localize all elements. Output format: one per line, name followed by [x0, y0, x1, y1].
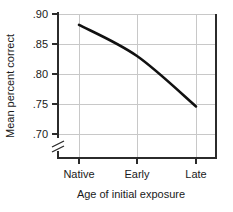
- chart-figure: .90 .85 .80 .75 .70 Native Early Late Ag…: [0, 0, 233, 212]
- x-tick-marks: [79, 158, 196, 164]
- y-tick-label-4: .70: [33, 128, 48, 140]
- line-chart: .90 .85 .80 .75 .70 Native Early Late Ag…: [0, 0, 233, 212]
- x-tick-label-native: Native: [63, 168, 94, 180]
- y-tick-label-1: .85: [33, 38, 48, 50]
- x-tick-label-early: Early: [124, 168, 150, 180]
- y-tick-marks: [52, 14, 58, 134]
- y-tick-label-2: .80: [33, 68, 48, 80]
- x-tick-label-late: Late: [185, 168, 206, 180]
- y-tick-label-3: .75: [33, 98, 48, 110]
- y-tick-label-0: .90: [33, 8, 48, 20]
- x-axis-title: Age of initial exposure: [77, 188, 185, 200]
- y-axis-title: Mean percent correct: [4, 34, 16, 138]
